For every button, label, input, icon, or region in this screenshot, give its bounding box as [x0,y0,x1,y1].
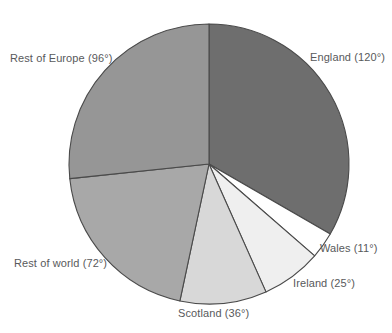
pie-label-rest-of-europe: Rest of Europe (96°) [10,53,112,64]
pie-label-england: England (120°) [310,52,385,63]
pie-label-ireland: Ireland (25°) [293,278,355,289]
pie-label-rest-of-world: Rest of world (72°) [14,258,107,269]
pie-label-wales: Wales (11°) [320,243,377,254]
pie-slices-group [69,24,349,304]
pie-slice-rest-of-europe [69,24,209,179]
pie-chart: England (120°) Wales (11°) Ireland (25°)… [0,0,392,333]
pie-label-scotland: Scotland (36°) [178,308,249,319]
